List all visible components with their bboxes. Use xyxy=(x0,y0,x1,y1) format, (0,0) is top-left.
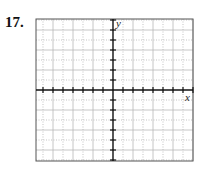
coordinate-grid: y x xyxy=(0,0,204,174)
y-axis-label: y xyxy=(115,17,121,29)
x-axis-label: x xyxy=(184,91,190,103)
